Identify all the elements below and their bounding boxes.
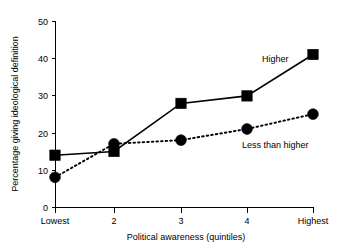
y-axis-tick-labels: 0 10 20 30 40 50: [38, 17, 48, 213]
data-point-higher-4: [242, 91, 252, 101]
x-axis-tick-labels: Lowest 2 3 4 Highest: [41, 216, 329, 226]
series-annotation-higher: Higher: [262, 54, 289, 64]
line-chart: 0 10 20 30 40 50 Lowest 2 3 4 Highest Po…: [0, 0, 343, 252]
data-point-less-than-higher-4: [242, 124, 253, 135]
data-point-higher-3: [176, 98, 186, 108]
data-point-higher-highest: [308, 49, 318, 59]
data-point-less-than-higher-lowest: [50, 172, 61, 183]
series-annotation-less-than-higher: Less than higher: [242, 140, 309, 150]
data-point-less-than-higher-3: [176, 135, 187, 146]
y-tick-label-30: 30: [38, 91, 48, 101]
x-axis-title: Political awareness (quintiles): [127, 232, 246, 242]
y-tick-label-50: 50: [38, 17, 48, 27]
x-tick-label-lowest: Lowest: [41, 216, 70, 226]
y-tick-label-40: 40: [38, 54, 48, 64]
x-axis-ticks: [56, 208, 314, 213]
x-tick-label-3: 3: [178, 216, 183, 226]
x-tick-label-4: 4: [244, 216, 249, 226]
x-tick-label-2: 2: [111, 216, 116, 226]
data-point-less-than-higher-highest: [308, 109, 319, 120]
y-tick-label-10: 10: [38, 166, 48, 176]
y-axis-title: Percentage giving ideological definition: [10, 36, 20, 192]
y-tick-label-20: 20: [38, 129, 48, 139]
x-tick-label-highest: Highest: [298, 216, 329, 226]
data-point-higher-lowest: [50, 150, 60, 160]
y-tick-label-0: 0: [43, 203, 48, 213]
data-point-higher-2: [109, 146, 119, 156]
chart-figure: 0 10 20 30 40 50 Lowest 2 3 4 Highest Po…: [0, 0, 343, 252]
